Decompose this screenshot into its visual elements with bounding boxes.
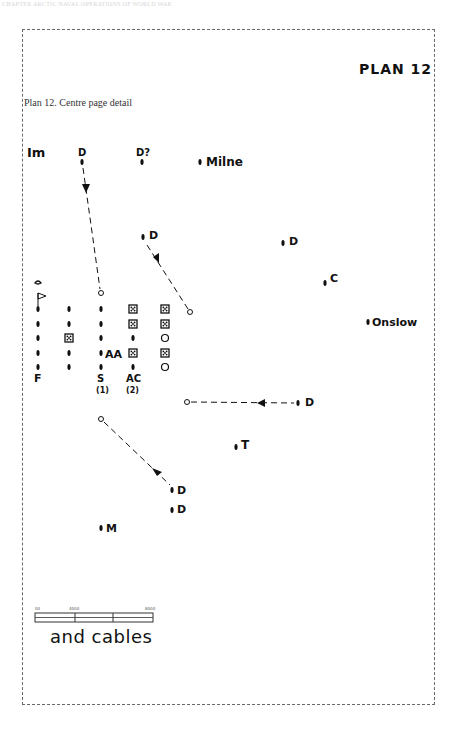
aircraft-icon [35,281,41,284]
label-d-top: D [78,147,86,158]
label-im: Im [27,145,45,160]
ship-marker-icon [281,240,284,246]
ship-marker-icon [198,159,201,165]
convoy-column-5 [161,305,169,371]
scale-tick-1: 4000 [69,606,79,611]
convoy-column-2 [65,306,73,370]
ship-marker-icon [366,319,369,325]
label-d-south-2: D [177,503,186,516]
label-t: T [241,438,250,452]
ship-marker-icon [234,444,237,450]
label-f: F [34,372,42,385]
track-end-circle-icon [99,417,104,422]
ship-marker-icon [140,159,143,165]
scale-tick-0: 00 [35,606,40,611]
label-c: C [330,272,338,285]
scale-bar [35,613,153,622]
arrow-up-left-icon [152,468,162,476]
convoy-flag [35,281,46,306]
ship-marker-icon [170,507,173,513]
label-milne: Milne [206,155,243,169]
label-d-question: D? [136,147,150,158]
flag-icon [38,293,46,299]
label-s-number: (1) [96,386,109,395]
destroyer-track-east: D [185,396,315,409]
label-d-right: D [289,235,298,248]
ship-marker-icon [296,400,299,406]
ship-marker-icon [80,159,83,165]
convoy-column-4: AC (2) [126,305,141,395]
destroyer-track-north: D [78,147,104,296]
arrow-down-right-icon [153,253,159,263]
label-d-mid: D [149,229,158,242]
destroyer-track-middle: D [141,229,192,315]
label-ac: AC [126,373,141,384]
label-s: S [97,373,104,384]
arrow-down-icon [82,184,90,193]
convoy-column-1: F [34,306,42,385]
label-d-east: D [305,396,314,409]
ship-marker-icon [323,280,326,286]
destroyer-track-south: D [99,417,187,498]
scale-units-label: and cables [50,626,152,647]
track-end-circle-icon [188,310,193,315]
label-ac-number: (2) [126,386,139,395]
convoy-column-3: AA S (1) [96,306,123,395]
label-m: M [106,522,117,535]
ship-marker-icon [99,525,102,531]
ship-marker-icon [170,487,173,493]
scale-tick-2: 8000 [145,606,155,611]
label-aa: AA [105,348,123,361]
track-end-circle-icon [99,291,104,296]
label-d-south-1: D [177,484,186,497]
label-onslow: Onslow [372,316,417,329]
ship-marker-icon [141,234,144,240]
track-end-circle-icon [185,400,190,405]
arrow-left-icon [257,399,265,407]
